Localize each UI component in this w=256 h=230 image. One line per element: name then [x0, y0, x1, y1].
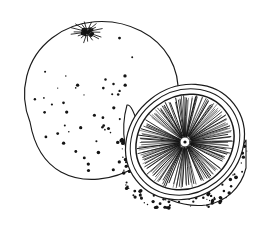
core-dot	[183, 140, 186, 143]
orange-illustration-svg	[0, 0, 256, 230]
illustration-canvas	[0, 0, 256, 230]
